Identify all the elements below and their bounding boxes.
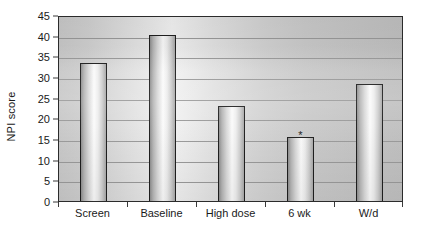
- y-tick-label: 45: [38, 10, 50, 22]
- y-tick-label: 10: [38, 155, 50, 167]
- x-axis-label-6-wk: 6 wk: [288, 207, 311, 219]
- gridline: [59, 58, 402, 59]
- y-tick-label: 40: [38, 31, 50, 43]
- y-tick-label: 30: [38, 72, 50, 84]
- y-tick-label: 35: [38, 51, 50, 63]
- bar-chart: NPI score 051015202530354045 * ScreenBas…: [0, 0, 424, 233]
- y-tick-label: 25: [38, 93, 50, 105]
- plot-area: *: [58, 16, 403, 202]
- x-axis-labels: ScreenBaselineHigh dose6 wkW/d: [58, 207, 403, 227]
- x-axis-label-baseline: Baseline: [140, 207, 182, 219]
- y-tick-label: 5: [44, 175, 50, 187]
- y-tick-label: 0: [44, 196, 50, 208]
- x-axis-label-w-d: W/d: [359, 207, 379, 219]
- bar-6-wk: [287, 137, 314, 201]
- y-axis-ticks: 051015202530354045: [22, 0, 58, 233]
- bar-high-dose: [218, 106, 245, 201]
- y-tick-label: 15: [38, 134, 50, 146]
- y-axis-title: NPI score: [0, 0, 22, 233]
- significance-asterisk: *: [298, 130, 302, 141]
- gridline: [59, 100, 402, 101]
- bar-screen: [80, 63, 107, 201]
- bar-w-d: [356, 84, 383, 201]
- gridline: [59, 79, 402, 80]
- x-axis-label-high-dose: High dose: [206, 207, 256, 219]
- y-tick-label: 20: [38, 113, 50, 125]
- x-axis-label-screen: Screen: [75, 207, 110, 219]
- gridline: [59, 38, 402, 39]
- bar-baseline: [149, 35, 176, 201]
